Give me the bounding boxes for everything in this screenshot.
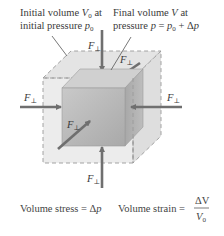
- volume-strain-denominator: V0: [196, 211, 206, 224]
- force-label-right: F⊥: [166, 92, 180, 105]
- volume-stress-formula: Volume stress = Δp: [20, 203, 102, 214]
- volume-strain-numerator: ΔV: [195, 195, 210, 206]
- bulk-stress-diagram: Initial volume V0 at initial pressure p0…: [0, 0, 224, 236]
- initial-pressure-label: initial pressure p0: [20, 20, 94, 33]
- final-volume-label: Final volume V at: [113, 7, 188, 18]
- force-label-left: F⊥: [23, 92, 37, 105]
- volume-strain-label: Volume strain =: [118, 203, 185, 214]
- leader-initial: [52, 36, 67, 56]
- final-pressure-label: pressure p = p0 + Δp: [113, 20, 199, 33]
- initial-volume-label: Initial volume V0 at: [20, 7, 102, 20]
- force-label-bottom: F⊥: [86, 173, 100, 186]
